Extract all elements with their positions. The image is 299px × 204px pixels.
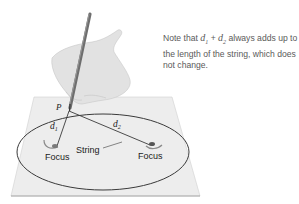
- note-var-d2: d2: [218, 32, 226, 43]
- focus-label-right: Focus: [138, 151, 163, 161]
- paper-sheet: [11, 97, 200, 196]
- focus-label-left: Focus: [45, 152, 70, 162]
- hand-icon: [52, 30, 130, 104]
- string-label: String: [76, 145, 100, 155]
- point-label: P: [55, 102, 62, 112]
- explanatory-note: Note that d1 + d2 always adds up to the …: [163, 32, 299, 72]
- ellipse-string-illustration: P d1 d2 String Focus Focus: [0, 0, 299, 204]
